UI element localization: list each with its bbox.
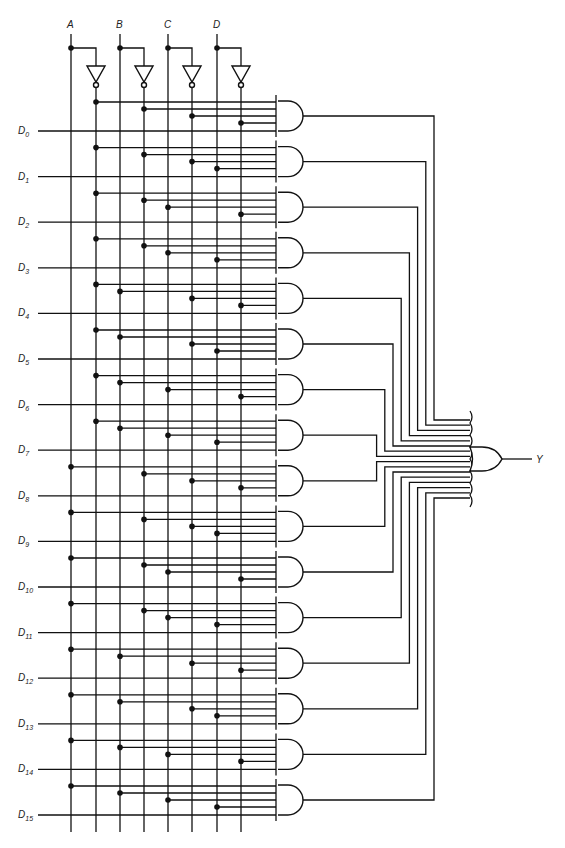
junction-dot [214, 348, 220, 354]
junction-dot [68, 783, 74, 789]
and-gate-icon [278, 648, 303, 678]
data-input-label-3: D3 [18, 262, 29, 275]
output-label-y: Y [536, 454, 544, 465]
junction-dot [141, 197, 147, 203]
and-output-wire [303, 488, 470, 709]
junction-dot [117, 289, 123, 295]
and-gate-icon [278, 329, 303, 359]
and-gate-icon [278, 101, 303, 131]
and-gate-icon [278, 785, 303, 815]
junction-dot [238, 303, 244, 309]
junction-dot [238, 394, 244, 400]
and-gate-icon [278, 466, 303, 496]
inverter-icon [183, 66, 201, 82]
junction-dot [117, 425, 123, 431]
junction-dot [68, 555, 74, 561]
junction-dot [238, 576, 244, 582]
junction-dot [238, 485, 244, 491]
data-input-label-0: D0 [18, 125, 29, 138]
junction-dot [165, 387, 171, 393]
inverter-bubble-icon [190, 83, 195, 88]
data-input-label-12: D12 [18, 672, 33, 685]
and-output-wire [303, 162, 470, 426]
junction-dot [117, 380, 123, 386]
data-input-label-9: D9 [18, 535, 29, 548]
inverter-bubble-icon [94, 83, 99, 88]
junction-dot [238, 120, 244, 126]
or-input-bar [470, 411, 472, 507]
inverter-feed-wire [217, 48, 241, 66]
junction-dot [141, 152, 147, 158]
mux-diagram: ABCDD0D1D2D3D4D5D6D7D8D9D10D11D12D13D14D… [0, 0, 565, 848]
junction-dot [117, 790, 123, 796]
junction-dot [189, 660, 195, 666]
junction-dot [93, 327, 99, 333]
junction-dot [68, 510, 74, 516]
inverter-feed-wire [71, 48, 96, 66]
junction-dot [93, 236, 99, 242]
junction-dot [68, 464, 74, 470]
junction-dot [238, 667, 244, 673]
junction-dot [165, 615, 171, 621]
junction-dot [189, 478, 195, 484]
inverter-icon [135, 66, 153, 82]
and-gate-icon [278, 557, 303, 587]
junction-dot [189, 706, 195, 712]
junction-dot [165, 250, 171, 256]
and-gate-icon [278, 375, 303, 405]
junction-dot [141, 517, 147, 523]
junction-dot [214, 713, 220, 719]
data-input-label-8: D8 [18, 490, 29, 503]
and-output-wire [303, 207, 470, 430]
and-gate-icon [278, 603, 303, 633]
junction-dot [68, 646, 74, 652]
junction-dot [165, 797, 171, 803]
junction-dot [117, 334, 123, 340]
junction-dot [214, 622, 220, 628]
junction-dot [141, 243, 147, 249]
junction-dot [93, 190, 99, 196]
junction-dot [189, 524, 195, 530]
and-output-wire [303, 467, 470, 527]
data-input-label-5: D5 [18, 353, 29, 366]
junction-dot [117, 745, 123, 751]
inverter-bubble-icon [142, 83, 147, 88]
data-input-label-15: D15 [18, 809, 33, 822]
junction-dot [93, 145, 99, 151]
select-label-c: C [164, 19, 172, 30]
junction-dot [214, 531, 220, 537]
junction-dot [189, 113, 195, 119]
junction-dot [189, 159, 195, 165]
and-output-wire [303, 482, 470, 663]
junction-dot [189, 341, 195, 347]
data-input-label-6: D6 [18, 399, 29, 412]
junction-dot [68, 692, 74, 698]
junction-dot [141, 106, 147, 112]
and-gate-icon [278, 283, 303, 313]
junction-dot [165, 432, 171, 438]
junction-dot [93, 282, 99, 288]
data-input-label-7: D7 [18, 444, 30, 457]
junction-dot [238, 759, 244, 765]
inverter-icon [87, 66, 105, 82]
inverter-icon [232, 66, 250, 82]
junction-dot [214, 439, 220, 445]
data-input-label-1: D1 [18, 171, 29, 184]
inverter-feed-wire [168, 48, 192, 66]
data-input-label-4: D4 [18, 307, 29, 320]
junction-dot [141, 608, 147, 614]
and-gate-icon [278, 192, 303, 222]
junction-dot [68, 738, 74, 744]
junction-dot [189, 296, 195, 302]
junction-dot [141, 562, 147, 568]
and-gate-icon [278, 238, 303, 268]
inverter-bubble-icon [239, 83, 244, 88]
data-input-label-11: D11 [18, 627, 33, 640]
select-label-d: D [213, 19, 220, 30]
junction-dot [93, 99, 99, 105]
or-gate-icon [470, 447, 502, 471]
junction-dot [238, 211, 244, 217]
junction-dot [117, 653, 123, 659]
and-output-wire [303, 462, 470, 481]
and-gate-icon [278, 739, 303, 769]
